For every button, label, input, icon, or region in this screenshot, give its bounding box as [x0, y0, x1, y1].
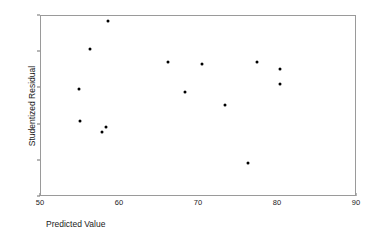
x-axis-tick-label: 70 — [194, 199, 202, 207]
data-point — [246, 162, 249, 165]
scatter-plot: Studentized Residual 210-1-2-3 506070809… — [0, 0, 377, 240]
data-point — [224, 104, 227, 107]
data-point — [279, 83, 282, 86]
data-point — [107, 20, 110, 23]
data-point — [88, 47, 91, 50]
x-axis-tick-label: 80 — [273, 199, 281, 207]
x-axis-tick-label: 50 — [36, 199, 44, 207]
y-axis-title-container: Studentized Residual — [25, 15, 39, 196]
data-point — [255, 60, 258, 63]
data-point — [100, 130, 103, 133]
x-axis-title: Predicted Value — [46, 219, 105, 229]
data-point — [78, 119, 81, 122]
y-axis-title-text: Studentized Residual — [27, 65, 37, 145]
data-point — [201, 62, 204, 65]
data-point — [279, 68, 282, 71]
data-point — [104, 125, 107, 128]
data-point — [77, 88, 80, 91]
y-axis-title: Studentized Residual — [25, 15, 39, 196]
x-axis-tick-label: 60 — [115, 199, 123, 207]
data-point — [183, 91, 186, 94]
x-axis-tick-label: 90 — [352, 199, 360, 207]
data-point — [167, 60, 170, 63]
plot-frame — [40, 15, 356, 196]
